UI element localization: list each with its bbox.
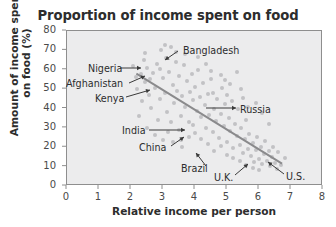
data-point — [174, 50, 178, 54]
y-tick-label: 20 — [34, 141, 56, 151]
data-point — [140, 99, 144, 103]
data-point — [220, 86, 224, 90]
data-point — [207, 113, 211, 117]
annotation-label-us: U.S. — [286, 172, 305, 182]
data-point — [260, 162, 264, 166]
data-point — [252, 160, 256, 164]
data-point — [263, 139, 267, 143]
data-point — [131, 64, 135, 68]
y-tick-label: 10 — [34, 161, 56, 171]
x-tick-label: 0 — [58, 192, 74, 202]
data-point — [238, 143, 242, 147]
data-point — [276, 150, 280, 154]
data-point — [179, 114, 183, 118]
data-point — [246, 147, 250, 151]
chart-title: Proportion of income spent on food — [0, 8, 336, 23]
data-point — [271, 145, 275, 149]
data-point — [230, 99, 234, 103]
x-tick-label: 5 — [218, 192, 234, 202]
data-point — [171, 83, 175, 87]
x-tick-label: 1 — [90, 192, 106, 202]
data-point — [148, 77, 152, 81]
data-point — [139, 72, 143, 76]
chart-figure: Proportion of income spent on food Amoun… — [0, 0, 336, 227]
data-point — [270, 155, 274, 159]
data-point — [158, 67, 162, 71]
data-point — [223, 78, 227, 82]
data-point — [180, 94, 184, 98]
data-point — [179, 138, 183, 142]
data-point — [164, 56, 168, 60]
x-tick-label: 6 — [250, 192, 266, 202]
data-point — [259, 145, 263, 149]
data-point — [153, 133, 157, 137]
data-point — [153, 86, 157, 90]
data-point — [254, 148, 258, 152]
y-tick-label: 0 — [34, 180, 56, 190]
data-point — [147, 93, 151, 97]
annotation-label-russia: Russia — [240, 105, 271, 115]
data-point — [233, 122, 237, 126]
y-tick-label: 60 — [34, 64, 56, 74]
data-point — [231, 146, 235, 150]
data-point — [182, 63, 186, 67]
x-tick-label: 4 — [186, 192, 202, 202]
data-point — [214, 119, 218, 123]
x-tick-label: 3 — [154, 192, 170, 202]
data-point — [249, 154, 253, 158]
data-point — [166, 130, 170, 134]
data-point — [145, 126, 149, 130]
data-point — [177, 128, 181, 132]
data-point — [206, 142, 210, 146]
data-point — [251, 166, 255, 170]
data-point — [225, 93, 229, 97]
data-point — [228, 129, 232, 133]
data-point — [225, 140, 229, 144]
data-point — [225, 153, 229, 157]
data-point — [187, 120, 191, 124]
data-point — [177, 74, 181, 78]
data-point — [172, 101, 176, 105]
data-point — [231, 156, 235, 160]
annotation-label-nigeria: Nigeria — [88, 64, 122, 74]
data-point — [145, 66, 149, 70]
data-point — [209, 69, 213, 73]
data-point — [283, 156, 287, 160]
data-point — [251, 141, 255, 145]
data-point — [219, 112, 223, 116]
data-point — [187, 135, 191, 139]
data-point — [169, 120, 173, 124]
data-point — [212, 107, 216, 111]
data-point — [158, 97, 162, 101]
data-point — [161, 76, 165, 80]
data-point — [204, 62, 208, 66]
data-point — [203, 103, 207, 107]
x-tick-label: 7 — [282, 192, 298, 202]
data-point — [204, 126, 208, 130]
data-point — [235, 134, 239, 138]
data-point — [163, 43, 167, 47]
data-point — [196, 68, 200, 72]
annotation-label-uk: U.K. — [214, 173, 233, 183]
annotation-label-kenya: Kenya — [95, 94, 124, 104]
x-tick-label: 2 — [122, 192, 138, 202]
data-point — [247, 132, 251, 136]
y-axis-label-text: Amount of income spent on food (%) — [8, 0, 33, 136]
data-point — [174, 60, 178, 64]
data-point — [241, 96, 245, 100]
data-point — [163, 91, 167, 95]
data-point — [222, 124, 226, 128]
data-point — [143, 51, 147, 55]
data-point — [142, 58, 146, 62]
data-point — [201, 81, 205, 85]
data-point — [165, 110, 169, 114]
data-point — [206, 92, 210, 96]
data-point — [134, 75, 138, 79]
data-point — [257, 157, 261, 161]
data-point — [156, 118, 160, 122]
y-tick-label: 30 — [34, 122, 56, 132]
data-point — [219, 144, 223, 148]
data-point — [169, 45, 173, 49]
data-point — [227, 116, 231, 120]
data-point — [191, 98, 195, 102]
